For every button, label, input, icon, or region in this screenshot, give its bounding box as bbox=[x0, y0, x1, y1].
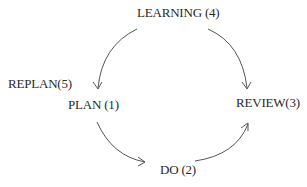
edge-plan-to-do-curve bbox=[97, 122, 145, 162]
edge-learning-to-review bbox=[208, 29, 251, 89]
edge-plan-to-do bbox=[97, 122, 145, 166]
edge-learning-to-review-curve bbox=[208, 29, 247, 88]
node-do: DO (2) bbox=[160, 163, 196, 177]
edge-do-to-review bbox=[195, 123, 248, 161]
node-plan: PLAN (1) bbox=[68, 98, 119, 112]
node-replan: REPLAN(5) bbox=[8, 77, 72, 91]
node-learning: LEARNING (4) bbox=[137, 6, 219, 20]
edge-learning-to-plan-arrowhead bbox=[93, 82, 102, 89]
edge-learning-to-plan bbox=[93, 29, 137, 89]
node-review: REVIEW(3) bbox=[236, 96, 300, 110]
edge-learning-to-plan-curve bbox=[98, 29, 137, 88]
edge-do-to-review-curve bbox=[195, 124, 248, 161]
arrows-layer bbox=[0, 0, 307, 187]
